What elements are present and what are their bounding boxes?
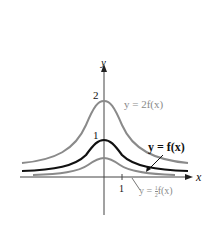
x-tick-label-1: 1 [119,184,124,194]
label-half-f-suffix: f(x) [158,185,173,196]
graph-canvas [0,0,212,227]
x-axis-arrow-icon [185,174,193,180]
label-half-f: y = 12f(x) [139,185,173,198]
y-axis-label: y [101,57,106,68]
label-2f: y = 2f(x) [124,99,163,110]
x-axis-label: x [196,171,201,183]
y-tick-label-1: 1 [93,130,99,141]
y-tick-label-2: 2 [93,90,99,101]
label-half-f-prefix: y = [139,185,155,196]
label-f: y = f(x) [148,141,185,153]
